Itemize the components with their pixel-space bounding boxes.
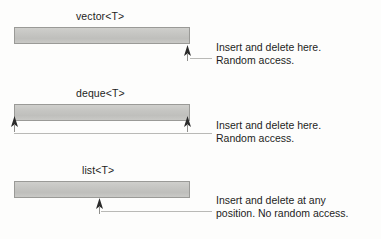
callout-vector-line-1: Insert and delete here. bbox=[216, 41, 321, 54]
container-bar-list bbox=[14, 181, 190, 198]
container-label-deque: deque<T> bbox=[76, 87, 125, 99]
callout-vector: Insert and delete here. Random access. bbox=[216, 41, 321, 66]
container-bar-vector bbox=[14, 27, 190, 44]
callout-deque-line-2: Random access. bbox=[216, 132, 321, 145]
callout-list-line-2: position. No random access. bbox=[216, 207, 348, 220]
callout-deque: Insert and delete here. Random access. bbox=[216, 119, 321, 144]
callout-list: Insert and delete at any position. No ra… bbox=[216, 194, 348, 219]
container-label-list: list<T> bbox=[82, 164, 114, 176]
callout-vector-line-2: Random access. bbox=[216, 54, 321, 67]
leader-line-vector bbox=[190, 58, 212, 59]
insert-delete-arrow-back-icon bbox=[183, 116, 192, 132]
callout-deque-line-1: Insert and delete here. bbox=[216, 119, 321, 132]
callout-list-line-1: Insert and delete at any bbox=[216, 194, 348, 207]
container-label-vector: vector<T> bbox=[76, 10, 124, 22]
leader-line-list bbox=[101, 211, 212, 212]
leader-line-deque bbox=[14, 133, 212, 134]
diagram-canvas: vector<T> Insert and delete here. Random… bbox=[0, 0, 381, 239]
insert-delete-arrow-front-icon bbox=[10, 116, 19, 132]
container-bar-deque bbox=[14, 104, 190, 121]
